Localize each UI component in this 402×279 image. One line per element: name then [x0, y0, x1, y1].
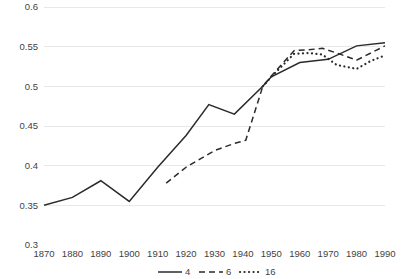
x-tick-label: 1870	[33, 248, 54, 259]
x-axis-tick-labels: 1870188018901900191019201930194019501960…	[33, 248, 395, 259]
y-tick-label: 0.4	[25, 160, 38, 171]
x-tick-label: 1880	[62, 248, 83, 259]
x-tick-label: 1930	[204, 248, 225, 259]
y-axis-tick-labels: 0.30.350.40.450.50.550.6	[20, 1, 39, 250]
y-tick-label: 0.6	[25, 1, 38, 12]
series-line-6	[166, 46, 385, 183]
x-tick-label: 1900	[119, 248, 140, 259]
chart-canvas: 0.30.350.40.450.50.550.6 187018801890190…	[0, 0, 402, 279]
series-line-4	[44, 43, 385, 206]
series-group	[44, 43, 385, 206]
x-tick-label: 1910	[147, 248, 168, 259]
x-tick-label: 1950	[261, 248, 282, 259]
x-tick-label: 1890	[90, 248, 111, 259]
x-tick-label: 1990	[374, 248, 395, 259]
x-tick-label: 1940	[232, 248, 253, 259]
y-tick-label: 0.5	[25, 81, 38, 92]
y-tick-label: 0.35	[20, 200, 39, 211]
legend-label-16: 16	[265, 266, 276, 277]
series-line-16	[263, 53, 385, 86]
x-tick-label: 1960	[289, 248, 310, 259]
chart-legend: 4616	[158, 266, 276, 277]
x-tick-label: 1980	[346, 248, 367, 259]
line-chart: 0.30.350.40.450.50.550.6 187018801890190…	[0, 0, 402, 279]
x-tick-label: 1920	[176, 248, 197, 259]
y-tick-label: 0.55	[20, 41, 39, 52]
legend-label-4: 4	[185, 266, 190, 277]
x-tick-label: 1970	[318, 248, 339, 259]
legend-label-6: 6	[226, 266, 231, 277]
y-tick-label: 0.45	[20, 120, 39, 131]
